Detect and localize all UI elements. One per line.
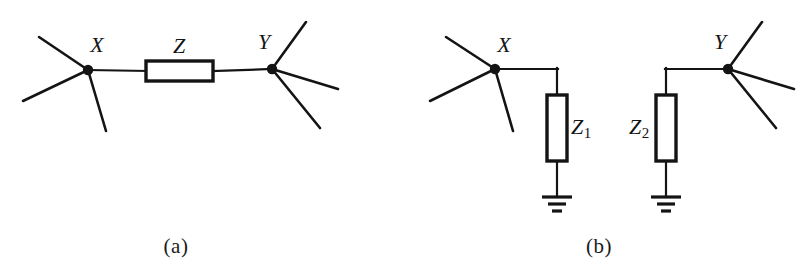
node-label-x-b: X (497, 32, 510, 58)
node-label-y-a: Y (258, 29, 270, 55)
node-x-stub-upper-left-a (39, 37, 88, 70)
node-y-stub-upper-right-b (728, 22, 762, 69)
impedance-z2-box (656, 95, 676, 161)
node-x-stub-lower-left-b (430, 69, 495, 101)
wire-x-to-z (88, 70, 148, 71)
node-x-stub-upper-left-b (446, 37, 495, 69)
node-y-stub-lower-right-a (272, 69, 320, 128)
panel-b-group (430, 22, 794, 211)
node-x-dot-b (490, 64, 500, 74)
impedance-label-z2: Z2 (629, 114, 649, 142)
ground-symbol-z2 (651, 197, 681, 211)
node-x-stub-lower-left-a (23, 70, 88, 101)
node-x-stub-lower-b (495, 69, 513, 131)
node-y-dot-a (267, 64, 277, 74)
impedance-label-z1: Z1 (571, 114, 591, 142)
circuit-diagram-canvas (0, 0, 808, 274)
impedance-z-box (146, 61, 213, 81)
node-y-stub-upper-right-a (272, 22, 306, 69)
wire-z-to-y (211, 69, 272, 71)
node-y-stub-lower-right-b (728, 69, 776, 128)
circuit-figure: X Y Z (a) X Y Z1 Z2 (b) (0, 0, 808, 274)
node-y-stubs-a (272, 22, 338, 128)
node-y-stubs-b (728, 22, 794, 128)
panel-caption-a: (a) (164, 234, 189, 259)
impedance-label-z: Z (173, 33, 185, 59)
ground-symbol-z1 (542, 197, 572, 211)
node-y-dot-b (723, 64, 733, 74)
node-x-stub-lower-a (88, 70, 106, 131)
node-y-stub-right-a (272, 69, 338, 89)
impedance-label-z1-base: Z (571, 114, 583, 139)
impedance-label-z2-base: Z (629, 114, 641, 139)
panel-caption-b: (b) (586, 234, 612, 259)
impedance-label-z1-subscript: 1 (584, 125, 592, 141)
node-x-dot-a (83, 65, 93, 75)
node-y-stub-right-b (728, 69, 794, 89)
node-label-x-a: X (90, 32, 103, 58)
impedance-z1-box (547, 95, 567, 161)
node-label-y-b: Y (714, 29, 726, 55)
impedance-label-z2-subscript: 2 (642, 125, 650, 141)
